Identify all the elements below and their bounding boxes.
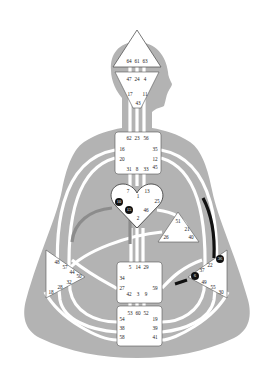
gate-label: 57 xyxy=(62,264,68,270)
gate-label: 39 xyxy=(152,325,158,331)
gate-label: 62 xyxy=(126,135,132,141)
gate-label: 51 xyxy=(175,218,181,224)
gate-label: 12 xyxy=(152,156,158,162)
gate-label: 43 xyxy=(135,100,141,106)
gate-label: 55 xyxy=(210,284,216,290)
gate-label: 61 xyxy=(134,58,140,64)
gate-label: 46 xyxy=(143,207,149,213)
gate-label: 10 xyxy=(117,199,122,204)
gate-label: 28 xyxy=(57,284,63,290)
gate-label: 3 xyxy=(137,291,140,297)
gate-label: 18 xyxy=(48,289,54,295)
gate-label: 15 xyxy=(127,207,132,212)
gate-label: 56 xyxy=(143,135,149,141)
gate-label: 22 xyxy=(207,262,213,268)
gate-label: 8 xyxy=(136,166,139,172)
gate-label: 24 xyxy=(134,76,140,82)
gate-label: 26 xyxy=(163,234,169,240)
root-center: 53 60 52 54 19 38 39 58 41 xyxy=(117,306,162,346)
gate-label: 25 xyxy=(154,198,160,204)
gate-label: 63 xyxy=(142,58,148,64)
gate-label: 47 xyxy=(126,76,132,82)
gate-label: 37 xyxy=(199,267,205,273)
throat-center: 62 23 56 16 35 20 12 45 31 8 33 xyxy=(115,132,161,174)
gate-label: 5 xyxy=(129,264,132,270)
gate-label: 4 xyxy=(144,76,147,82)
gate-label: 29 xyxy=(143,264,149,270)
gate-label: 45 xyxy=(152,164,158,170)
gate-label: 30 xyxy=(218,289,224,295)
gate-label: 49 xyxy=(201,279,207,285)
gate-label: 9 xyxy=(145,291,148,297)
gate-label: 41 xyxy=(152,334,158,340)
gate-label: 13 xyxy=(144,188,150,194)
bodygraph: 64 61 63 47 24 4 17 11 43 62 23 56 16 35… xyxy=(0,0,272,382)
gate-label: 32 xyxy=(66,279,72,285)
gate-label: 16 xyxy=(119,146,125,152)
gate-label: 54 xyxy=(119,316,125,322)
gate-label: 11 xyxy=(143,91,148,97)
gate-label: 52 xyxy=(143,310,149,316)
gate-label: 64 xyxy=(126,58,132,64)
gate-label: 44 xyxy=(69,269,75,275)
gate-label: 60 xyxy=(135,310,141,316)
gate-label: 33 xyxy=(143,166,149,172)
gate-label: 38 xyxy=(119,325,125,331)
gate-label: 27 xyxy=(119,285,125,291)
gate-label: 36 xyxy=(218,256,223,261)
gate-label: 2 xyxy=(137,215,140,221)
gate-label: 31 xyxy=(126,166,132,172)
gate-label: 35 xyxy=(152,146,158,152)
gate-label: 23 xyxy=(134,135,140,141)
gate-label: 21 xyxy=(184,226,190,232)
gate-label: 42 xyxy=(126,291,132,297)
gate-label: 53 xyxy=(127,310,133,316)
gate-label: 34 xyxy=(119,275,125,281)
gate-label: 7 xyxy=(127,188,130,194)
sacral-center: 5 14 29 34 27 59 42 3 9 xyxy=(117,262,162,303)
gate-label: 50 xyxy=(76,273,82,279)
gate-label: 59 xyxy=(152,285,158,291)
gate-label: 1 xyxy=(137,193,140,199)
gate-label: 14 xyxy=(135,264,141,270)
gate-label: 48 xyxy=(54,259,60,265)
gate-label: 58 xyxy=(119,334,125,340)
gate-label: 19 xyxy=(152,316,158,322)
gate-label: 17 xyxy=(127,91,133,97)
gate-label: 40 xyxy=(188,234,194,240)
gate-label: 20 xyxy=(119,156,125,162)
